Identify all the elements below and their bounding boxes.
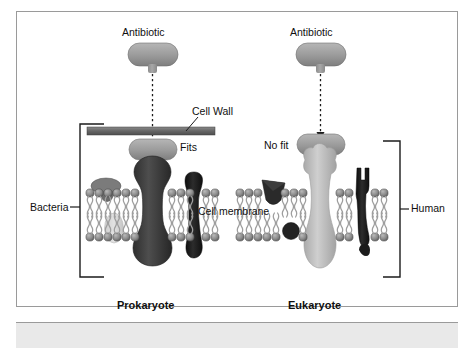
figure-canvas: Antibiotic Antibiotic Cell Wall Fits No … bbox=[0, 0, 475, 348]
label-cell-membrane: Cell membrane bbox=[198, 206, 269, 217]
label-antibiotic-eukaryote: Antibiotic bbox=[290, 27, 333, 38]
label-human: Human bbox=[411, 203, 445, 214]
label-bacteria: Bacteria bbox=[30, 202, 69, 213]
label-fits: Fits bbox=[180, 142, 197, 153]
label-antibiotic-prokaryote: Antibiotic bbox=[122, 27, 165, 38]
bottom-band bbox=[16, 322, 458, 348]
label-cell-wall: Cell Wall bbox=[192, 106, 233, 117]
label-no-fit: No fit bbox=[264, 140, 289, 151]
caption-prokaryote: Prokaryote bbox=[117, 300, 174, 311]
figure-frame bbox=[16, 11, 458, 307]
caption-eukaryote: Eukaryote bbox=[288, 300, 341, 311]
